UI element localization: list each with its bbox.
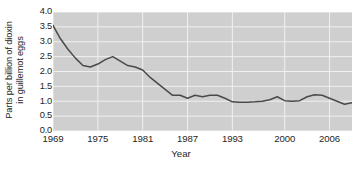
- dioxin-line-chart: Parts per billion of dioxin in guillemot…: [0, 0, 362, 170]
- x-tick-label: 2000: [274, 133, 295, 144]
- y-tick-label: 3.0: [40, 37, 52, 46]
- plot-svg: [53, 12, 352, 131]
- y-tick-label: 3.5: [40, 22, 52, 31]
- x-tick-label: 1993: [222, 133, 243, 144]
- x-tick-label: 1987: [177, 133, 198, 144]
- y-tick-label: 4.0: [40, 7, 52, 16]
- y-axis-label-line1: Parts per billion of dioxin: [4, 21, 14, 118]
- x-tick-label: 1969: [43, 133, 64, 144]
- y-tick-label: 1.5: [40, 82, 52, 91]
- y-tick-label: 1.0: [40, 97, 52, 106]
- x-tick-label: 1975: [87, 133, 108, 144]
- x-tick-label: 2006: [319, 133, 340, 144]
- y-axis-label-line2: in guillemot eggs: [15, 21, 26, 118]
- x-axis-label: Year: [0, 148, 362, 159]
- y-tick-label: 2.5: [40, 52, 52, 61]
- x-axis-ticks: 1969197519811987199320002006: [0, 133, 362, 147]
- y-tick-label: 2.0: [40, 67, 52, 76]
- x-tick-label: 1981: [132, 133, 153, 144]
- plot-area: [53, 12, 352, 131]
- y-tick-label: 0.5: [40, 111, 52, 120]
